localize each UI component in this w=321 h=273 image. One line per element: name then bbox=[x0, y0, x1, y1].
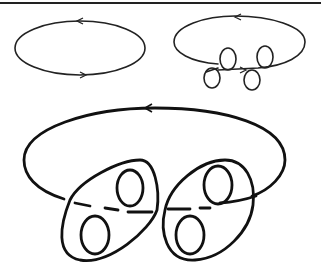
large-curve-with-two-bands bbox=[24, 104, 285, 260]
simple-oriented-ellipse bbox=[15, 18, 145, 78]
knot-diagram-canvas bbox=[0, 0, 321, 273]
arrow-left-icon bbox=[235, 14, 241, 20]
ellipse-with-four-loops bbox=[174, 14, 305, 90]
